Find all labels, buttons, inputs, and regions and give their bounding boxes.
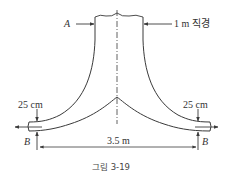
label-a: A: [64, 19, 70, 29]
figure-caption: 그림 3-19: [92, 163, 130, 172]
label-b-left: B: [24, 137, 30, 147]
label-diameter: 1 m 직경: [174, 19, 210, 29]
label-b-right: B: [202, 137, 208, 147]
outlet-end-left: [28, 122, 29, 131]
label-gap-left: 25 cm: [18, 100, 43, 110]
label-span: 3.5 m: [107, 136, 130, 146]
outlet-end-right: [210, 122, 211, 131]
pipe-break-line: [95, 13, 143, 17]
label-gap-right: 25 cm: [183, 100, 208, 110]
